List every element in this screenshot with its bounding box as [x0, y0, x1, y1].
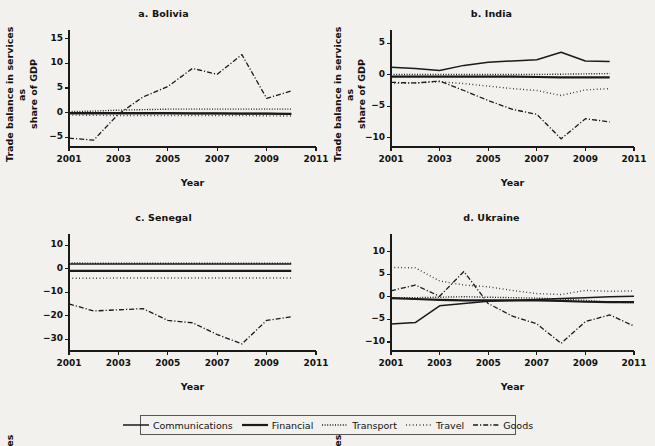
y-tick-label: −5 [347, 313, 385, 323]
y-tick-label: 10 [347, 246, 385, 256]
y-tick-label: −20 [25, 310, 63, 320]
series-line-transport [391, 74, 610, 75]
y-tick-label: 0 [25, 107, 63, 117]
series-line-communications [391, 52, 610, 70]
y-tick-label: 10 [25, 239, 63, 249]
x-tick-label: 2011 [612, 154, 655, 164]
legend-item-transport: Transport [322, 420, 397, 431]
legend-label-goods: Goods [503, 420, 533, 431]
series-line-goods [391, 81, 610, 139]
x-tick-label: 2001 [369, 358, 413, 368]
legend-swatch-transport-icon [322, 421, 348, 429]
x-tick-label: 2009 [563, 358, 607, 368]
y-tick-label: 5 [347, 268, 385, 278]
x-tick-label: 2009 [245, 358, 289, 368]
plot-area-ukraine [328, 208, 655, 404]
y-tick-label: 0 [347, 69, 385, 79]
y-axis-label-senegal: Trade balance in services as share of GD… [4, 428, 40, 446]
x-tick-label: 2007 [195, 154, 239, 164]
y-tick-label: −10 [347, 336, 385, 346]
legend-item-travel: Travel [406, 420, 464, 431]
chart-panel-senegal: c. SenegalTrade balance in services as s… [0, 208, 327, 404]
x-tick-label: 2009 [245, 154, 289, 164]
x-tick-label: 2007 [195, 358, 239, 368]
series-line-transport [69, 109, 291, 111]
legend-label-communications: Communications [153, 420, 233, 431]
y-tick-label: 10 [25, 57, 63, 67]
x-tick-label: 2001 [47, 358, 91, 368]
x-tick-label: 2007 [515, 154, 559, 164]
x-tick-label: 2003 [418, 154, 462, 164]
legend-swatch-travel-icon [406, 421, 432, 429]
y-tick-label: −5 [347, 100, 385, 110]
legend-item-communications: Communications [123, 420, 233, 431]
legend-label-travel: Travel [436, 420, 464, 431]
x-tick-label: 2009 [563, 154, 607, 164]
x-tick-label: 2003 [418, 358, 462, 368]
series-line-financial [391, 298, 634, 302]
x-tick-label: 2005 [146, 154, 190, 164]
x-tick-label: 2001 [369, 154, 413, 164]
x-tick-label: 2005 [466, 358, 510, 368]
y-tick-label: 15 [25, 33, 63, 43]
x-tick-label: 2003 [96, 154, 140, 164]
legend-label-financial: Financial [272, 420, 314, 431]
x-tick-label: 2005 [466, 154, 510, 164]
x-tick-label: 2007 [515, 358, 559, 368]
figure-multipanel-line-charts: a. BoliviaTrade balance in services as s… [0, 0, 655, 446]
y-tick-label: −10 [347, 132, 385, 142]
legend-swatch-goods-icon [473, 421, 499, 429]
series-legend: CommunicationsFinancialTransportTravelGo… [140, 415, 516, 435]
series-line-goods [391, 271, 634, 343]
y-tick-label: 5 [25, 82, 63, 92]
y-tick-label: −30 [25, 333, 63, 343]
series-line-travel [69, 115, 291, 116]
x-tick-label: 2005 [146, 358, 190, 368]
y-tick-label: −10 [25, 286, 63, 296]
chart-panel-ukraine: d. UkraineTrade balance in services as s… [328, 208, 655, 404]
series-line-financial [69, 113, 291, 114]
chart-panel-bolivia: a. BoliviaTrade balance in services as s… [0, 4, 327, 200]
series-line-travel [391, 82, 610, 96]
series-line-financial [391, 77, 610, 78]
x-tick-label: 2003 [96, 358, 140, 368]
legend-label-transport: Transport [352, 420, 397, 431]
x-tick-label: 2011 [612, 358, 655, 368]
x-tick-label: 2001 [47, 154, 91, 164]
series-line-goods [69, 55, 291, 140]
y-tick-label: −5 [25, 131, 63, 141]
y-tick-label: 0 [25, 263, 63, 273]
series-line-goods [69, 304, 291, 344]
chart-panel-india: b. IndiaTrade balance in services as sha… [328, 4, 655, 200]
legend-item-financial: Financial [242, 420, 314, 431]
legend-item-goods: Goods [473, 420, 533, 431]
y-tick-label: 0 [347, 291, 385, 301]
legend-swatch-financial-icon [242, 421, 268, 429]
legend-swatch-communications-icon [123, 421, 149, 429]
y-tick-label: 5 [347, 37, 385, 47]
plot-area-senegal [0, 208, 327, 404]
